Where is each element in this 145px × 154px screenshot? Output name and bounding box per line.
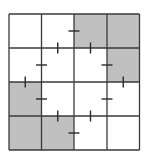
puzzle-board — [0, 0, 145, 154]
empty-cell[interactable] — [9, 14, 42, 48]
shaded-cell[interactable] — [107, 14, 140, 48]
shaded-cell[interactable] — [9, 116, 42, 150]
empty-cell[interactable] — [107, 116, 140, 150]
